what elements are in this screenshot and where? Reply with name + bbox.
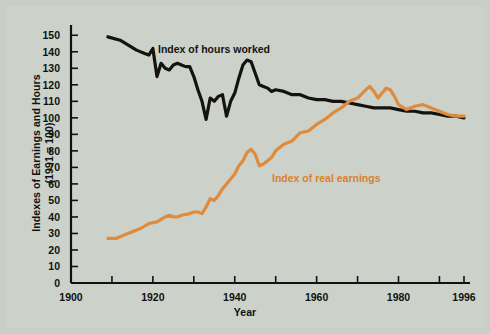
y-axis-tick-label: 0 [54,277,60,289]
series-label-real-earnings: Index of real earnings [272,172,381,184]
x-axis-tick-label: 1996 [452,291,476,303]
y-axis-title-line1: Indexes of Earnings and Hours [30,74,42,232]
x-axis-tick-label: 1980 [387,291,411,303]
x-axis-tick-label: 1940 [223,291,247,303]
plot-area: 0102030405060708090100110120130140150190… [0,0,490,334]
x-axis-tick-label: 1920 [141,291,165,303]
series-label-hours-worked: Index of hours worked [158,43,270,55]
y-axis-title: Indexes of Earnings and Hours (1991 = 10… [30,48,56,258]
y-axis-tick-label: 150 [42,29,60,41]
y-axis-title-line2: (1991 = 100) [43,122,55,183]
x-axis-tick-label: 1900 [59,291,83,303]
y-axis-tick-label: 10 [48,260,60,272]
x-axis-tick-label: 1960 [305,291,329,303]
x-axis-title: Year [0,306,490,318]
chart-figure: 0102030405060708090100110120130140150190… [0,0,490,334]
series-line-index-of-real-earnings [108,86,464,238]
